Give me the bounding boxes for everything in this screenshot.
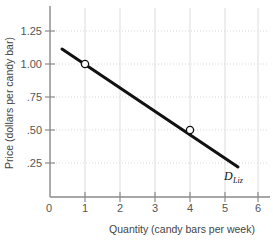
ytick-label-1.00: 1.00 (21, 58, 42, 70)
xtick-label-5: 5 (222, 202, 228, 214)
demand-curve-label-subscript: Liz (232, 176, 244, 185)
demand-curve-line (62, 49, 238, 167)
demand-curve-figure: 1.25 1.00 .75 .50 .25 0 1 2 3 4 5 6 D Li… (0, 0, 273, 240)
data-point-marker-2 (186, 126, 193, 133)
xtick-label-2: 2 (117, 202, 123, 214)
horizontal-gridlines (50, 31, 268, 163)
ytick-label-0.25: .25 (27, 157, 42, 169)
demand-curve-label: D (223, 169, 233, 183)
xtick-label-4: 4 (187, 202, 193, 214)
xtick-label-1: 1 (82, 202, 88, 214)
ytick-label-0.75: .75 (27, 91, 42, 103)
ytick-label-1.25: 1.25 (21, 25, 42, 37)
ytick-label-0.50: .50 (27, 124, 42, 136)
y-axis-title: Price (dollars per candy bar) (3, 37, 15, 169)
chart-canvas: 1.25 1.00 .75 .50 .25 0 1 2 3 4 5 6 D Li… (0, 0, 273, 240)
xtick-label-3: 3 (152, 202, 158, 214)
origin-label: 0 (46, 202, 52, 214)
xtick-label-6: 6 (255, 202, 261, 214)
x-axis-title: Quantity (candy bars per week) (109, 223, 255, 235)
data-point-marker-1 (81, 60, 88, 67)
